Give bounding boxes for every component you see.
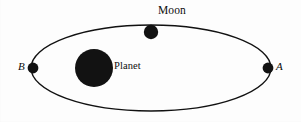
orbit-point-b-marker <box>28 63 39 74</box>
orbit-point-a-marker <box>263 63 274 74</box>
planet-label: Planet <box>114 61 141 72</box>
moon-label: Moon <box>158 5 186 17</box>
moon-body-icon <box>144 25 158 39</box>
point-b-label: B <box>18 61 25 72</box>
point-a-label: A <box>276 61 283 72</box>
orbit-diagram-canvas <box>0 0 301 122</box>
orbit-diagram-figure: Moon Planet A B <box>0 0 301 122</box>
planet-body-icon <box>75 49 113 87</box>
